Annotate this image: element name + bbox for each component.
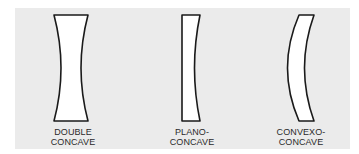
double-concave-label-line1: DOUBLE xyxy=(28,127,118,137)
double-concave-label-line2: CONCAVE xyxy=(28,137,118,147)
convexo-concave-label-line2: CONCAVE xyxy=(256,137,346,147)
plano-concave-label: PLANO- CONCAVE xyxy=(147,127,237,147)
convexo-concave-lens-shape xyxy=(286,14,316,122)
double-concave-lens-shape xyxy=(52,14,92,122)
plano-concave-label-line2: CONCAVE xyxy=(147,137,237,147)
convexo-concave-label-line1: CONVEXO- xyxy=(256,127,346,137)
double-concave-label: DOUBLE CONCAVE xyxy=(28,127,118,147)
plano-concave-lens-shape xyxy=(181,14,203,122)
convexo-concave-label: CONVEXO- CONCAVE xyxy=(256,127,346,147)
plano-concave-label-line1: PLANO- xyxy=(147,127,237,137)
